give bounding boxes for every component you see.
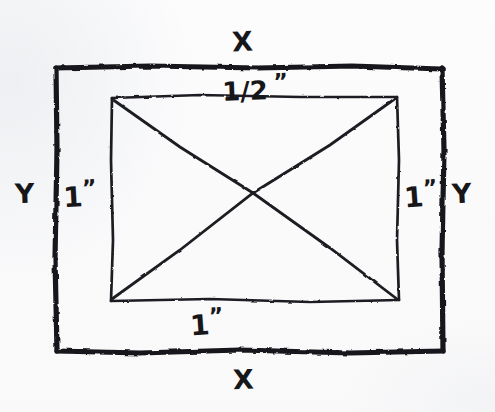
label-bottom-margin-dimension: 1”: [189, 305, 224, 341]
prime-mark-left: ”: [82, 175, 97, 201]
label-left-margin-dimension: 1”: [62, 177, 97, 212]
label-top-margin-dimension: 1/2”: [221, 71, 287, 105]
label-y-right: Y: [451, 179, 472, 207]
diagonal-lines: [112, 98, 397, 299]
label-x-bottom: X: [233, 366, 255, 394]
prime-mark-top: ”: [273, 69, 287, 94]
label-top-margin-value: 1/2: [222, 75, 269, 107]
label-x-top: X: [231, 27, 254, 55]
label-right-margin-dimension: 1”: [403, 177, 438, 213]
label-left-margin-value: 1: [62, 180, 83, 214]
sketch-page: X X Y Y 1” 1” 1” 1/2”: [0, 0, 495, 412]
prime-mark-bottom: ”: [208, 303, 223, 329]
label-y-left: Y: [15, 180, 36, 208]
prime-mark-right: ”: [422, 175, 437, 201]
